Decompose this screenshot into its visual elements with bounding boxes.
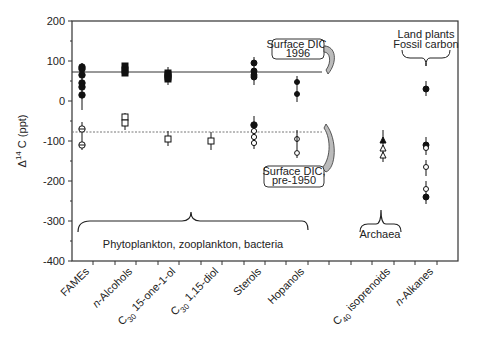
delta14c-chart: 200 100 0 -100 -200 -300 -400 Δ14 C (ppt… bbox=[0, 0, 479, 345]
svg-text:Fossil carbon: Fossil carbon bbox=[393, 38, 458, 50]
y-tick-labels: 200 100 0 -100 -200 -300 -400 bbox=[43, 15, 65, 267]
x-category-labels: FAMEs n-Alcohols C30 15-one-1-ol C30 1,1… bbox=[58, 265, 436, 331]
phytoplankton-annotation: Phytoplankton, zooplankton, bacteria bbox=[78, 212, 308, 250]
y-axis-label: Δ14 C (ppt) bbox=[14, 115, 28, 168]
cat-label-c40-isoprenoids: C40 isoprenoids bbox=[330, 265, 396, 331]
plot-frame bbox=[72, 21, 458, 261]
surface-dic-1996-callout: Surface DIC, 1996 bbox=[267, 38, 335, 74]
svg-text:pre-1950: pre-1950 bbox=[272, 174, 316, 186]
svg-text:1996: 1996 bbox=[286, 47, 310, 59]
svg-text:Phytoplankton, zooplankton, ba: Phytoplankton, zooplankton, bacteria bbox=[103, 238, 284, 250]
y-tick-label: -300 bbox=[43, 215, 65, 227]
y-tick-label: -200 bbox=[43, 175, 65, 187]
x-axis-ticks bbox=[93, 261, 437, 265]
cat-label-n-alkanes: n-Alkanes bbox=[392, 265, 435, 308]
svg-text:Archaea: Archaea bbox=[360, 228, 402, 240]
y-tick-label: 100 bbox=[47, 55, 65, 67]
y-tick-label: 0 bbox=[59, 95, 65, 107]
y-tick-label: -100 bbox=[43, 135, 65, 147]
cat-label-sterols: Sterols bbox=[231, 265, 264, 298]
cat-label-fames: FAMEs bbox=[58, 265, 92, 299]
land-plants-annotation: Land plants Fossil carbon bbox=[393, 28, 458, 66]
y-tick-label: -400 bbox=[43, 255, 65, 267]
data-points bbox=[79, 57, 429, 204]
cat-label-n-alcohols: n-Alcohols bbox=[90, 265, 135, 310]
y-tick-label: 200 bbox=[47, 15, 65, 27]
archaea-annotation: Archaea bbox=[360, 210, 402, 240]
cat-label-hopanols: Hopanols bbox=[265, 265, 307, 307]
